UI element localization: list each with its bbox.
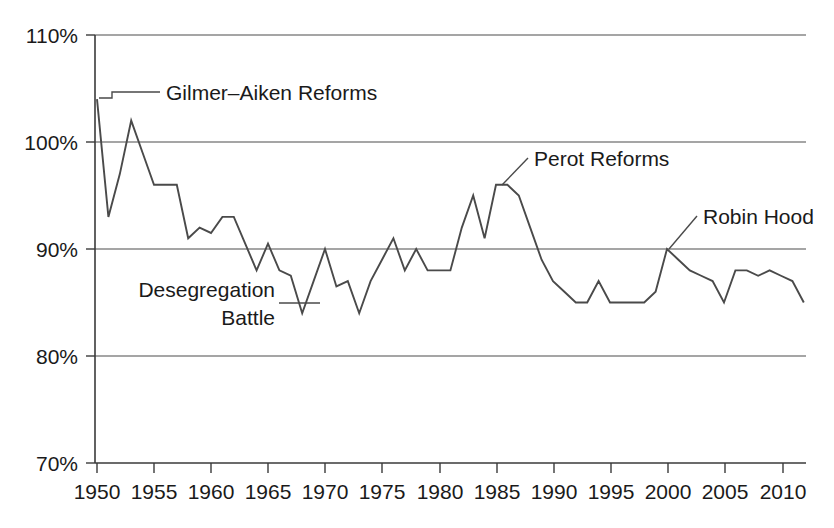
x-label-1980: 1980 [417, 480, 464, 503]
y-label-90: 90% [36, 238, 78, 261]
leader-line-robin-hood [669, 216, 697, 249]
annotation-gilmer-aiken: Gilmer–Aiken Reforms [166, 81, 377, 104]
y-label-100: 100% [24, 131, 78, 154]
x-label-2000: 2000 [645, 480, 692, 503]
annotation-robin-hood: Robin Hood [703, 205, 814, 228]
y-label-70: 70% [36, 452, 78, 475]
x-label-1950: 1950 [74, 480, 121, 503]
x-label-1970: 1970 [302, 480, 349, 503]
x-label-2010: 2010 [760, 480, 807, 503]
leader-line-gilmer-aiken [99, 92, 160, 98]
leader-line-perot [502, 158, 528, 185]
x-label-1955: 1955 [131, 480, 178, 503]
annotation-desegregation-line2: Battle [221, 306, 275, 329]
x-tick-marks [97, 463, 783, 473]
y-label-80: 80% [36, 345, 78, 368]
x-label-1995: 1995 [588, 480, 635, 503]
annotation-desegregation-line1: Desegregation [138, 278, 275, 301]
x-label-1965: 1965 [245, 480, 292, 503]
y-axis-labels: 110% 100% 90% 80% 70% [24, 24, 78, 475]
line-chart: 110% 100% 90% 80% 70% 1950 1955 1960 196… [0, 0, 834, 528]
annotation-perot: Perot Reforms [534, 147, 669, 170]
annotation-leaders [99, 92, 697, 303]
chart-canvas: 110% 100% 90% 80% 70% 1950 1955 1960 196… [0, 0, 834, 528]
y-label-110: 110% [26, 24, 78, 47]
x-label-1990: 1990 [531, 480, 578, 503]
x-label-1985: 1985 [474, 480, 521, 503]
y-tick-marks [86, 35, 95, 463]
x-axis-labels: 1950 1955 1960 1965 1970 1975 1980 1985 … [74, 480, 807, 503]
x-label-1975: 1975 [359, 480, 406, 503]
x-label-2005: 2005 [702, 480, 749, 503]
x-label-1960: 1960 [188, 480, 235, 503]
